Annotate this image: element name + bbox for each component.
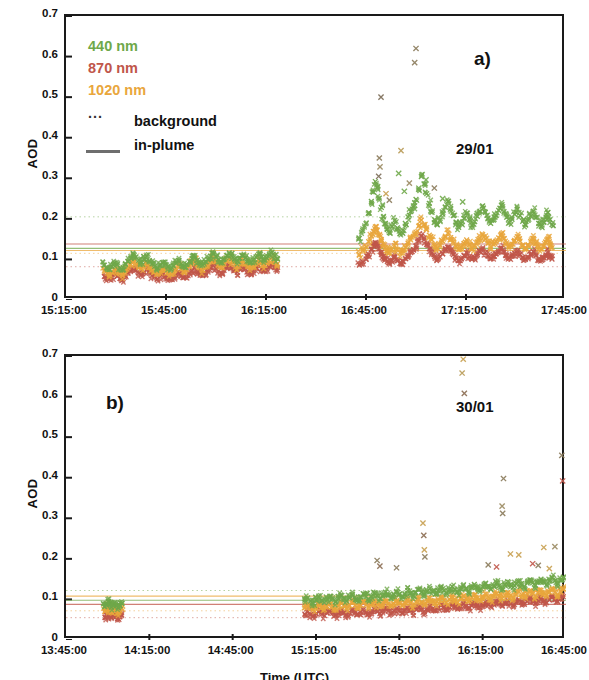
x-tick-a: 17:45:00 [524,304,589,316]
x-tick-b: 14:15:00 [107,644,187,656]
x-tick-b: 16:15:00 [441,644,521,656]
panel-date-a: 29/01 [456,140,494,157]
y-tick-a: 0.1 [24,250,58,262]
x-axis-title: Time (UTC) [0,670,589,680]
y-tick-b: 0.2 [24,550,58,562]
outlier-points [376,46,465,205]
x-tick-b: 13:45:00 [24,644,104,656]
y-tick-a: 0.5 [24,88,58,100]
panel-a: AOD 00.10.20.30.40.50.60.7 15:15:0015:45… [0,0,589,340]
panel-date-b: 30/01 [456,398,494,415]
legend-label-background: background [134,113,217,129]
x-tick-b: 16:45:00 [524,644,589,656]
legend-wavelength-440-nm: 440 nm [88,38,138,54]
legend-wavelength-1020-nm: 1020 nm [88,82,146,98]
plot-area-b [64,354,564,638]
panel-b: AOD 00.10.20.30.40.50.60.7 13:45:0014:15… [0,340,589,680]
x-tick-a: 15:45:00 [124,304,204,316]
x-tick-a: 17:15:00 [424,304,504,316]
y-tick-a: 0.4 [24,129,58,141]
legend-dotted-marker: ... [88,105,103,121]
y-tick-b: 0 [24,631,58,643]
x-tick-a: 15:15:00 [24,304,104,316]
y-tick-b: 0.7 [24,347,58,359]
legend-label-in-plume: in-plume [134,137,194,153]
y-tick-b: 0.5 [24,428,58,440]
x-tick-b: 15:45:00 [357,644,437,656]
y-tick-a: 0 [24,291,58,303]
figure-root: AOD 00.10.20.30.40.50.60.7 15:15:0015:45… [0,0,589,680]
outlier-points [375,357,566,572]
y-tick-a: 0.2 [24,210,58,222]
y-tick-b: 0.6 [24,388,58,400]
y-tick-a: 0.7 [24,7,58,19]
panel-tag-b: b) [106,392,124,414]
y-tick-a: 0.3 [24,169,58,181]
y-tick-b: 0.1 [24,590,58,602]
panel-tag-a: a) [474,48,491,70]
x-tick-a: 16:15:00 [224,304,304,316]
y-tick-b: 0.3 [24,509,58,521]
legend-wavelength-870-nm: 870 nm [88,60,138,76]
x-tick-b: 14:45:00 [191,644,271,656]
legend-solid-marker [86,150,120,153]
y-tick-a: 0.6 [24,48,58,60]
y-tick-b: 0.4 [24,469,58,481]
x-tick-a: 16:45:00 [324,304,404,316]
x-tick-b: 15:15:00 [274,644,354,656]
scatter-plot-a [66,16,566,300]
